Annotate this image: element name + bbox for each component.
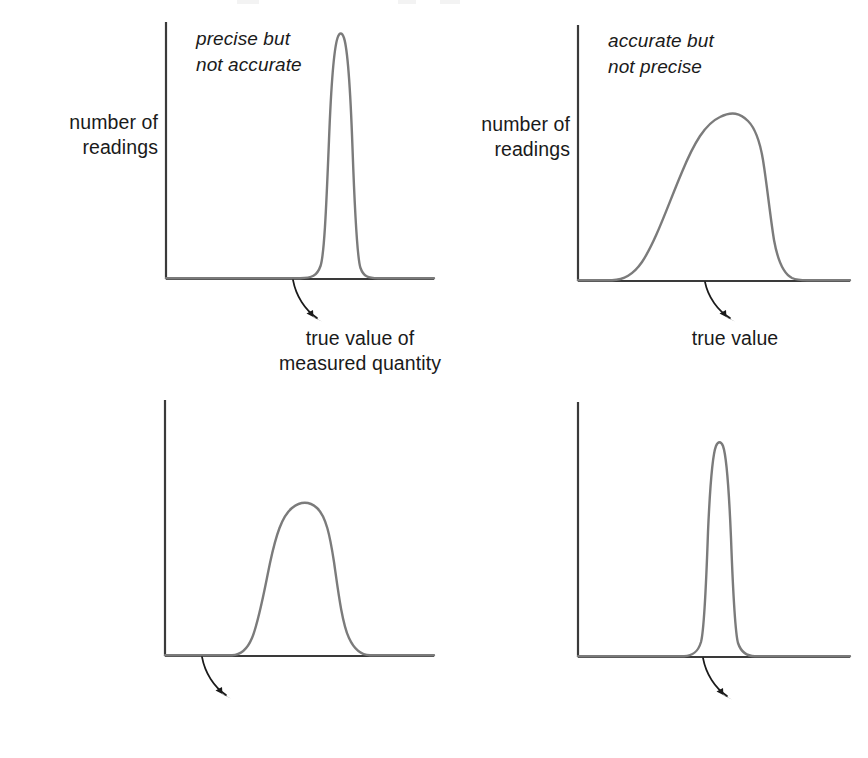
panel-neither-accurate-nor-precise: number of readings neither accurate nor … bbox=[0, 380, 440, 758]
distribution-curve bbox=[578, 442, 850, 656]
panel-4-graphic bbox=[440, 380, 868, 758]
pointer-arrow-line bbox=[705, 282, 730, 318]
pointer-arrow-line bbox=[293, 280, 317, 318]
pointer-arrow-line bbox=[202, 657, 226, 695]
figure-root: number of readings precise but not accur… bbox=[0, 0, 868, 758]
panel-3-graphic bbox=[0, 380, 440, 758]
distribution-curve bbox=[165, 503, 434, 655]
panel-precise-not-accurate: number of readings precise but not accur… bbox=[0, 0, 440, 380]
distribution-curve bbox=[578, 114, 850, 281]
panel-accurate-not-precise: number of readings accurate but not prec… bbox=[440, 0, 868, 380]
panel-2-caption: accurate but not precise bbox=[608, 28, 828, 80]
panel-2-y-axis-label: number of readings bbox=[430, 112, 570, 162]
panel-1-y-axis-label: number of readings bbox=[18, 110, 158, 160]
panel-2-pointer-label: true value bbox=[640, 326, 830, 351]
panel-1-caption: precise but not accurate bbox=[196, 26, 406, 78]
pointer-arrow-line bbox=[703, 658, 727, 696]
panel-accurate-and-precise: number of readings accurate and precise … bbox=[440, 380, 868, 758]
